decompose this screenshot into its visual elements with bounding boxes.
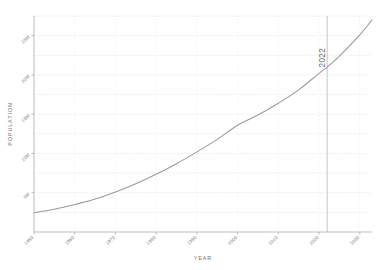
reference-line-2022-label: 2022 [318,48,327,68]
x-tick-label: 1950 [23,235,35,247]
x-tick-label: 2020 [308,235,320,247]
chart-svg: 2022 19501960197019801990200020102020203… [0,0,379,270]
x-axis-tick-labels: 195019601970198019902000201020202030 [23,235,360,247]
x-tick-label: 2010 [268,235,280,247]
x-tick-label: 1970 [105,235,117,247]
x-axis-title: YEAR [194,255,212,261]
y-tick-label: 25M [20,34,30,44]
horizontal-gridlines [34,16,372,212]
x-tick-label: 2000 [227,235,239,247]
y-axis-title: POPULATION [7,102,13,145]
y-tick-label: 20M [20,74,30,84]
population-line-chart: 2022 19501960197019801990200020102020203… [0,0,379,270]
y-tick-label: 5M [22,191,30,199]
y-axis-tick-labels: 5M10M15M20M25M [20,34,30,199]
x-tick-label: 1960 [64,235,76,247]
x-tick-label: 1990 [186,235,198,247]
vertical-gridlines [34,16,360,232]
y-tick-label: 15M [20,113,30,123]
x-tick-label: 2030 [349,235,361,247]
x-tick-label: 1980 [146,235,158,247]
y-tick-label: 10M [20,152,30,162]
